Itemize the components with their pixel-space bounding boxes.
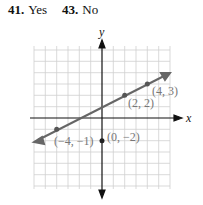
point-label: (4, 3) (152, 84, 178, 98)
point-label: (0, −2) (107, 130, 140, 144)
point-labels: (4, 3) (2, 2) (−4, −1) (0, −2) (54, 84, 178, 148)
point-label: (−4, −1) (54, 134, 94, 148)
point-label: (2, 2) (128, 96, 154, 110)
y-axis-label: y (98, 25, 105, 39)
coordinate-graph: x y (4, 3) (2, 2) (−4, −1) (0, −2) (0, 0, 203, 205)
x-axis-label: x (185, 111, 192, 125)
